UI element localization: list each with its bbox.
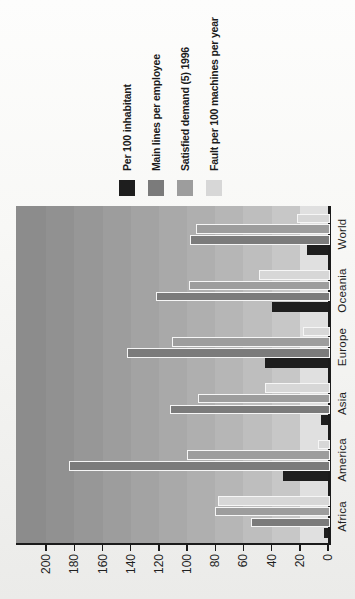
plot-area [16, 206, 328, 543]
category-axis-baseline [328, 206, 331, 545]
legend-swatch [119, 180, 135, 196]
bar [187, 450, 330, 460]
y-tick-label: 180 [67, 554, 81, 584]
tick-mark [130, 545, 132, 551]
tick-mark [74, 545, 76, 551]
bar [321, 415, 328, 425]
category-label: World [336, 206, 348, 263]
bar [156, 292, 330, 302]
bar [218, 496, 330, 506]
y-tick-label: 100 [180, 554, 194, 584]
legend-item: Fault per 100 machines per year [206, 17, 222, 196]
bar [190, 235, 330, 245]
category-label: Oceania [336, 262, 348, 319]
tick-mark [158, 545, 160, 551]
y-tick-label: 160 [96, 554, 110, 584]
tick-mark [299, 545, 301, 551]
bar [303, 327, 330, 337]
chart-canvas: 020406080100120140160180200 AfricaAmeric… [0, 0, 355, 599]
bar [259, 270, 330, 280]
bar [318, 440, 330, 450]
background-band [131, 206, 159, 543]
y-tick-label: 40 [265, 554, 279, 584]
legend: Per 100 inhabitantMain lines per employe… [119, 17, 235, 196]
category-label: Africa [336, 488, 348, 545]
background-band [300, 206, 328, 543]
bar [189, 281, 330, 291]
bar [170, 405, 330, 415]
tick-mark [215, 545, 217, 551]
bar [283, 471, 328, 481]
y-tick-label: 200 [39, 554, 53, 584]
category-label: Asia [336, 375, 348, 432]
y-tick-label: 20 [293, 554, 307, 584]
bar [69, 461, 330, 471]
bar [297, 214, 330, 224]
background-band [272, 206, 300, 543]
category-label: America [336, 432, 348, 489]
bar [127, 348, 330, 358]
legend-label: Satisfied demand (5) 1996 [179, 47, 191, 171]
bar [198, 394, 330, 404]
legend-swatch [148, 180, 164, 196]
bar [265, 383, 330, 393]
background-band [187, 206, 215, 543]
category-label: Europe [336, 319, 348, 376]
y-tick-label: 0 [321, 554, 335, 584]
tick-mark [271, 545, 273, 551]
background-band [215, 206, 243, 543]
legend-swatch [177, 180, 193, 196]
y-tick-label: 140 [124, 554, 138, 584]
legend-label: Per 100 inhabitant [121, 84, 133, 171]
background-band [243, 206, 271, 543]
y-tick-label: 120 [152, 554, 166, 584]
tick-mark [186, 545, 188, 551]
tick-mark [45, 545, 47, 551]
tick-mark [327, 545, 329, 551]
bar [215, 507, 330, 517]
bar [196, 224, 330, 234]
bar [251, 518, 330, 528]
tick-mark [243, 545, 245, 551]
legend-item: Per 100 inhabitant [119, 17, 135, 196]
y-tick-label: 60 [236, 554, 250, 584]
tick-mark [102, 545, 104, 551]
legend-label: Fault per 100 machines per year [208, 17, 220, 171]
background-band [159, 206, 187, 543]
bar [172, 337, 330, 347]
legend-item: Satisfied demand (5) 1996 [177, 17, 193, 196]
legend-item: Main lines per employee [148, 17, 164, 196]
bar [272, 302, 328, 312]
legend-label: Main lines per employee [150, 54, 162, 171]
bar [307, 245, 328, 255]
y-tick-label: 80 [208, 554, 222, 584]
background-band [103, 206, 131, 543]
background-band [74, 206, 102, 543]
rotated-bar-chart-figure: 020406080100120140160180200 AfricaAmeric… [0, 0, 355, 599]
value-axis-line [16, 543, 330, 545]
background-band [16, 206, 46, 543]
bar [265, 358, 328, 368]
background-band [46, 206, 74, 543]
legend-swatch [206, 180, 222, 196]
bar [324, 528, 328, 538]
